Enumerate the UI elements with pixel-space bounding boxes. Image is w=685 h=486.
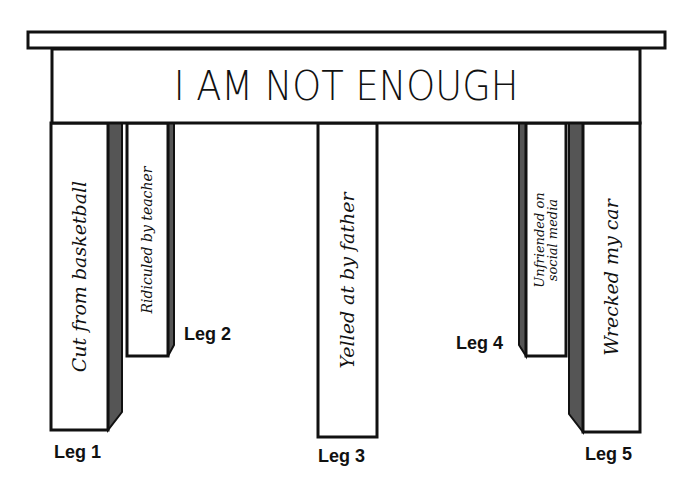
leg-1-text: Cut from basketball xyxy=(51,123,108,430)
leg-1-label: Leg 1 xyxy=(54,442,101,463)
leg-3-text: Yelled at by father xyxy=(318,123,377,437)
leg-5-label: Leg 5 xyxy=(585,444,632,465)
leg-3-label: Leg 3 xyxy=(318,446,365,467)
leg-2-text: Ridiculed by teacher xyxy=(127,123,168,356)
leg-4-label: Leg 4 xyxy=(456,333,503,354)
table-diagram: I AM NOT ENOUGH Cut from basketball Ridi… xyxy=(0,0,685,486)
table-title: I AM NOT ENOUGH xyxy=(76,49,617,123)
tabletop xyxy=(28,32,665,48)
leg-2-label: Leg 2 xyxy=(184,324,231,345)
leg-5-shade xyxy=(569,123,583,432)
leg-5-text: Wrecked my car xyxy=(583,123,640,432)
leg-1-shade xyxy=(108,123,122,430)
leg-4-text: Unfriended on social media xyxy=(526,123,566,356)
